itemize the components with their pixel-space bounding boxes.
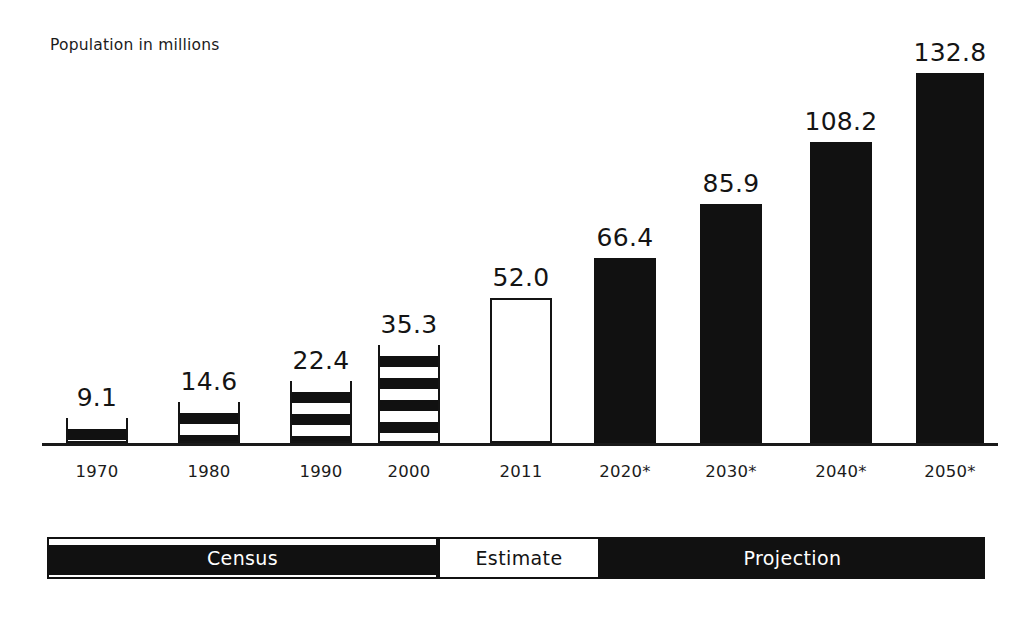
bar-2030-projected [700, 204, 762, 443]
x-tick-label: 2030* [675, 462, 787, 481]
x-tick-label: 2000 [353, 462, 465, 481]
x-tick-label: 2050* [891, 462, 1009, 481]
bar-value-label: 14.6 [158, 367, 260, 396]
x-tick-label: 1970 [41, 462, 153, 481]
legend-segment-projection: Projection [600, 537, 985, 579]
x-tick-label: 1980 [153, 462, 265, 481]
bar-2011 [490, 298, 552, 443]
legend-label: Census [207, 547, 278, 569]
bar-value-label: 132.8 [896, 38, 1004, 67]
bar-2040-projected [810, 142, 872, 443]
bar-value-label: 35.3 [358, 310, 460, 339]
bar-1980 [178, 402, 240, 443]
bar-value-label: 66.4 [574, 223, 676, 252]
bar-2050-projected [916, 73, 984, 443]
bar-value-label: 85.9 [680, 169, 782, 198]
bar-1990 [290, 381, 352, 443]
legend-band: CensusEstimateProjection [47, 537, 985, 579]
x-tick-label: 2040* [785, 462, 897, 481]
bar-value-label: 108.2 [790, 107, 892, 136]
legend-label: Estimate [475, 547, 562, 569]
bar-1970 [66, 418, 128, 443]
bar-value-label: 9.1 [46, 383, 148, 412]
bar-2000 [378, 345, 440, 443]
bar-value-label: 22.4 [270, 346, 372, 375]
legend-label: Projection [744, 547, 842, 569]
legend-segment-census: Census [47, 537, 438, 579]
plot-area: 9.1197014.6198022.4199035.3200052.020116… [0, 0, 1031, 445]
x-axis-baseline [42, 443, 998, 446]
bar-value-label: 52.0 [470, 263, 572, 292]
legend-segment-estimate: Estimate [438, 537, 600, 579]
x-tick-label: 2011 [465, 462, 577, 481]
bar-2020-projected [594, 258, 656, 443]
x-tick-label: 2020* [569, 462, 681, 481]
population-bar-chart: Population in millions 9.1197014.6198022… [0, 0, 1031, 621]
